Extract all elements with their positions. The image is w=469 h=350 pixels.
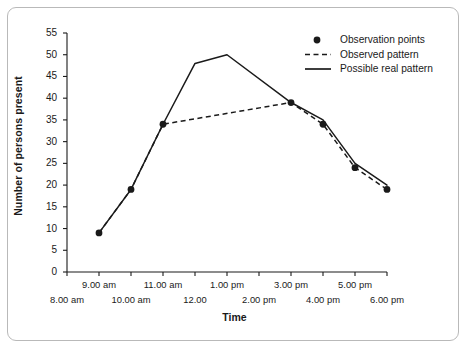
y-axis-tick-label: 25 <box>31 158 57 168</box>
series-group <box>96 55 391 237</box>
x-axis-tick-label-lower: 12.00 <box>183 295 206 305</box>
y-axis-tick-label: 10 <box>31 224 57 234</box>
legend-item-label: Observation points <box>340 34 425 45</box>
y-axis-tick-label: 55 <box>31 28 57 38</box>
legend-dot-icon <box>314 37 321 44</box>
x-axis-tick-label-upper: 1.00 pm <box>210 280 244 290</box>
legend-item-label: Observed pattern <box>340 49 419 60</box>
x-axis-tick-label-upper: 9.00 am <box>82 280 116 290</box>
y-axis-tick-label: 45 <box>31 71 57 81</box>
x-axis-tick-label-upper: 3.00 pm <box>274 280 308 290</box>
legend-markers <box>305 37 331 69</box>
x-axis-tick-label-lower: 4.00 pm <box>306 295 340 305</box>
y-axis-tick-label: 20 <box>31 180 57 190</box>
x-axis-tick-label-lower: 2.00 pm <box>242 295 276 305</box>
series-possible-real-pattern <box>99 55 387 233</box>
y-axis-tick-label: 30 <box>31 137 57 147</box>
y-axis-tick-label: 50 <box>31 50 57 60</box>
legend-item-label: Possible real pattern <box>340 63 433 74</box>
y-axis-tick-label: 0 <box>31 267 57 277</box>
y-axis-tick-label: 15 <box>31 202 57 212</box>
x-axis-tick-label-upper: 5.00 pm <box>338 280 372 290</box>
axes-group <box>63 33 387 276</box>
x-axis-tick-label-lower: 10.00 am <box>111 295 150 305</box>
x-axis-tick-label-upper: 11.00 am <box>144 280 182 290</box>
x-axis-tick-label-lower: 6.00 pm <box>370 295 404 305</box>
chart-plot-area: Number of persons present Time 051015202… <box>0 0 469 350</box>
y-axis-tick-label: 5 <box>31 245 57 255</box>
y-axis-tick-label: 40 <box>31 93 57 103</box>
y-axis-title: Number of persons present <box>12 56 24 236</box>
y-axis-tick-label: 35 <box>31 115 57 125</box>
x-axis-tick-label-lower: 8.00 am <box>50 295 84 305</box>
x-axis-title: Time <box>0 311 469 323</box>
